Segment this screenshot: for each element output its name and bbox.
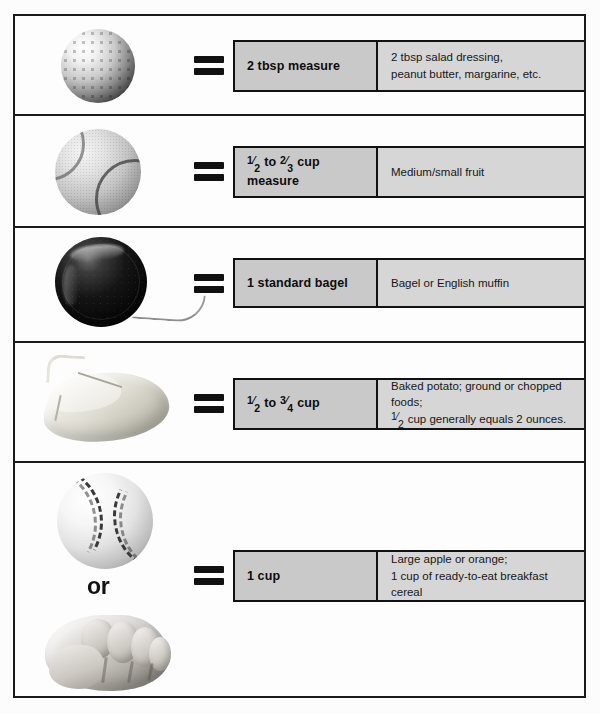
baseball-icon — [57, 473, 153, 569]
description-line: Baked potato; ground or chopped foods; — [391, 380, 562, 409]
measure-label: 1⁄2 to 3⁄4 cup — [247, 395, 320, 413]
row-image-cell — [15, 228, 180, 341]
description-box: Medium/small fruit — [378, 146, 584, 198]
table-row: or — [15, 463, 584, 696]
equals-icon — [194, 566, 224, 586]
description-line: 1 cup of ready-to-eat breakfast cereal — [391, 570, 548, 599]
fraction-three-quarters: 3⁄4 — [280, 393, 294, 410]
measure-label: 1 standard bagel — [247, 275, 348, 292]
measure-label: 1 cup — [247, 568, 280, 585]
measure-box: 1⁄2 to 2⁄3 cup measure — [233, 146, 378, 198]
equals-icon — [194, 56, 224, 76]
portion-chart-page: 2 tbsp measure 2 tbsp salad dressing, pe… — [0, 0, 600, 714]
description-text: Baked potato; ground or chopped foods; 1… — [391, 378, 576, 431]
row-image-cell — [15, 343, 180, 461]
equals-icon — [194, 274, 224, 294]
measure-mid: to — [261, 396, 280, 410]
table-row: 2 tbsp measure 2 tbsp salad dressing, pe… — [15, 16, 584, 116]
fraction-one-half: 1⁄2 — [391, 409, 404, 427]
row-image-cell — [15, 16, 180, 114]
description-box: Large apple or orange; 1 cup of ready-to… — [378, 550, 584, 602]
golf-ball-icon — [61, 29, 135, 103]
table-row: 1 standard bagel Bagel or English muffin — [15, 228, 584, 343]
measure-label: 2 tbsp measure — [247, 58, 340, 75]
chart-frame: 2 tbsp measure 2 tbsp salad dressing, pe… — [13, 14, 586, 698]
description-box: 2 tbsp salad dressing, peanut butter, ma… — [378, 40, 584, 92]
table-row: 1⁄2 to 3⁄4 cup Baked potato; ground or c… — [15, 343, 584, 463]
equals-icon — [194, 162, 224, 182]
fraction-two-thirds: 2⁄3 — [280, 153, 294, 170]
tennis-ball-icon — [55, 129, 141, 215]
description-line: Large apple or orange; — [391, 553, 507, 565]
description-box: Baked potato; ground or chopped foods; 1… — [378, 378, 584, 430]
description-text: 2 tbsp salad dressing, peanut butter, ma… — [391, 49, 541, 82]
equals-icon — [194, 394, 224, 414]
description-text: Large apple or orange; 1 cup of ready-to… — [391, 551, 576, 601]
measure-box: 2 tbsp measure — [233, 40, 378, 92]
description-line: 2 tbsp salad dressing, — [391, 51, 503, 63]
row-image-cell — [15, 116, 180, 226]
or-label: or — [87, 573, 109, 600]
measure-mid: to — [261, 155, 280, 169]
row-image-cell: or — [15, 463, 195, 696]
measure-box: 1 cup — [233, 550, 378, 602]
measure-box: 1 standard bagel — [233, 258, 378, 308]
description-box: Bagel or English muffin — [378, 258, 584, 308]
measure-label: 1⁄2 to 2⁄3 cup measure — [247, 154, 320, 189]
measure-tail: cup — [294, 155, 320, 169]
table-row: 1⁄2 to 2⁄3 cup measure Medium/small frui… — [15, 116, 584, 228]
yo-yo-icon — [55, 237, 147, 327]
measure-tail: cup — [294, 396, 320, 410]
description-line: cup generally equals 2 ounces. — [408, 413, 567, 425]
description-text: Medium/small fruit — [391, 164, 484, 181]
description-text: Bagel or English muffin — [391, 275, 509, 292]
fraction-one-half: 1⁄2 — [247, 393, 261, 410]
fist-icon — [35, 605, 185, 696]
measure-box: 1⁄2 to 3⁄4 cup — [233, 378, 378, 430]
description-line: peanut butter, margarine, etc. — [391, 68, 541, 80]
yo-yo-string-icon — [132, 291, 206, 324]
computer-mouse-icon — [29, 355, 179, 447]
measure-line2: measure — [247, 174, 299, 188]
fraction-one-half: 1⁄2 — [247, 153, 261, 170]
